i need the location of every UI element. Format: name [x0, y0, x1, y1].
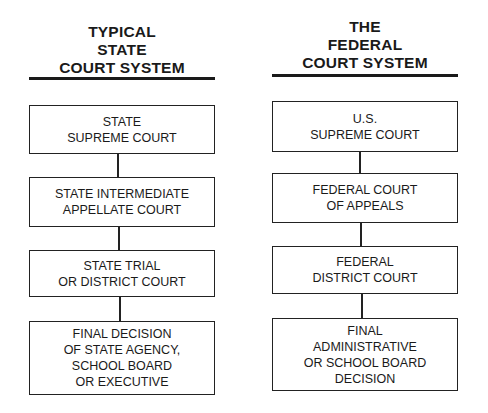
us-supreme-court-box: U.S. SUPREME COURT: [272, 101, 458, 152]
box-line: FEDERAL COURT: [313, 182, 418, 198]
connector-line: [361, 294, 363, 319]
box-line: OR SCHOOL BOARD: [304, 355, 426, 371]
box-line: FEDERAL: [336, 254, 394, 270]
title-line: TYPICAL: [29, 23, 215, 41]
title-line: THE: [272, 18, 458, 36]
box-line: SCHOOL BOARD: [72, 358, 172, 374]
box-line: U.S.: [353, 111, 377, 127]
box-line: STATE: [103, 114, 141, 130]
federal-column-title: THE FEDERAL COURT SYSTEM: [272, 18, 458, 72]
federal-district-court-box: FEDERAL DISTRICT COURT: [272, 246, 458, 294]
connector-line: [360, 223, 362, 247]
box-line: DISTRICT COURT: [312, 270, 417, 286]
box-line: STATE INTERMEDIATE: [55, 186, 189, 202]
title-line: FEDERAL: [272, 36, 458, 54]
state-supreme-court-box: STATE SUPREME COURT: [29, 105, 215, 154]
box-line: FINAL: [347, 323, 382, 339]
box-line: ADMINISTRATIVE: [313, 339, 417, 355]
state-trial-court-box: STATE TRIAL OR DISTRICT COURT: [29, 250, 215, 297]
federal-court-of-appeals-box: FEDERAL COURT OF APPEALS: [272, 173, 458, 223]
box-line: APPELLATE COURT: [63, 202, 181, 218]
box-line: DECISION: [335, 371, 395, 387]
title-line: COURT SYSTEM: [272, 54, 458, 72]
title-line: COURT SYSTEM: [29, 59, 215, 77]
state-column-title: TYPICAL STATE COURT SYSTEM: [29, 23, 215, 77]
federal-final-decision-box: FINAL ADMINISTRATIVE OR SCHOOL BOARD DEC…: [272, 318, 458, 391]
box-line: SUPREME COURT: [310, 127, 420, 143]
title-underline: [272, 74, 458, 77]
box-line: SUPREME COURT: [67, 130, 177, 146]
box-line: OR DISTRICT COURT: [58, 274, 185, 290]
title-underline: [29, 77, 215, 80]
box-line: STATE TRIAL: [83, 258, 160, 274]
state-final-decision-box: FINAL DECISION OF STATE AGENCY, SCHOOL B…: [29, 321, 215, 395]
connector-line: [359, 152, 361, 174]
title-line: STATE: [29, 41, 215, 59]
connector-line: [117, 154, 119, 178]
connector-line: [118, 227, 120, 251]
box-line: FINAL DECISION: [73, 326, 172, 342]
box-line: OF STATE AGENCY,: [64, 342, 181, 358]
box-line: OF APPEALS: [326, 198, 403, 214]
state-intermediate-appellate-court-box: STATE INTERMEDIATE APPELLATE COURT: [29, 177, 215, 227]
connector-line: [119, 297, 121, 322]
box-line: OR EXECUTIVE: [75, 374, 168, 390]
